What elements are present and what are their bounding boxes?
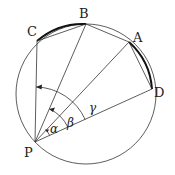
ray-pc xyxy=(35,41,37,142)
label-a: A xyxy=(132,30,143,45)
label-c: C xyxy=(27,24,37,39)
label-alpha: α xyxy=(50,122,58,136)
ray-pb xyxy=(35,24,86,142)
label-gamma: γ xyxy=(89,101,97,115)
label-beta: β xyxy=(66,116,74,130)
chord-ba xyxy=(86,24,129,42)
label-b: B xyxy=(79,6,89,21)
label-p: P xyxy=(24,145,33,160)
circle-angle-diagram: P C B A D α β γ xyxy=(0,0,175,175)
arrowhead-gamma-icon xyxy=(36,85,42,90)
diagram-canvas: P C B A D α β γ xyxy=(0,0,175,175)
chord-ad xyxy=(129,42,152,89)
label-d: D xyxy=(154,85,164,100)
